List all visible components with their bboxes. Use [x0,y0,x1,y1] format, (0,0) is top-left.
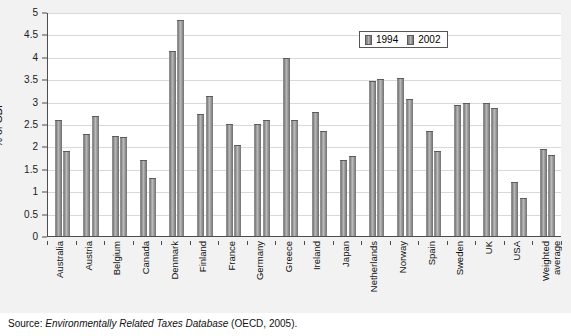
bar-1994-finland [197,114,204,236]
y-axis-tick-label: 3 [32,98,38,108]
bar-1994-spain [426,131,433,236]
legend-label: 1994 [376,34,398,45]
bar-1994-norway [397,78,404,236]
bar-2002-belgium [120,137,127,236]
x-axis-tick-label: USA [512,241,523,261]
x-axis-tick-label: Canada [141,241,152,274]
x-axis-tick-label: Spain [427,241,438,265]
gridline [48,58,561,59]
x-axis-tick-mark [47,241,48,245]
bar-1994-denmark [169,51,176,236]
chart-figure: % of GDP 00.511.522.533.544.55 Australia… [0,0,571,313]
x-axis-tick-label: UK [484,241,495,254]
y-axis-tick-label: 2.5 [24,120,38,130]
source-title: Environmentally Related Taxes Database [45,318,228,329]
bar-1994-canada [140,160,147,236]
x-axis-tick-mark [390,241,391,245]
bar-2002-uk [491,108,498,236]
x-axis-tick-label: Sweden [455,241,466,275]
bar-1994-australia [55,120,62,236]
bar-1994-greece [283,58,290,236]
y-axis-tick-label: 5 [32,8,38,18]
x-axis-tick-label: Germany [255,241,266,280]
source-prefix: Source: [8,318,45,329]
bar-1994-ireland [312,112,319,236]
x-axis-tick-mark [361,241,362,245]
bar-2002-canada [149,178,156,236]
y-axis-tick-label: 1 [32,187,38,197]
bar-2002-greece [291,120,298,236]
bar-2002-germany [263,120,270,236]
x-axis-tick-mark [504,241,505,245]
source-suffix: (OECD, 2005). [228,318,297,329]
x-axis-tick-mark [133,241,134,245]
y-axis-tick-label: 3.5 [24,75,38,85]
bar-2002-ireland [320,131,327,236]
x-axis-tick-label: Australia [55,241,66,278]
x-axis-tick-label: France [227,241,238,271]
x-axis-tick-label: Weightedaverage [541,241,562,281]
x-axis-tick-mark [76,241,77,245]
x-axis-tick-label: Netherlands [369,241,380,292]
legend-label: 2002 [418,34,440,45]
bar-2002-france [234,145,241,236]
bar-2002-australia [63,151,70,236]
bar-2002-norway [406,99,413,236]
x-axis-tick-label: Greece [284,241,295,272]
x-axis-tick-mark [104,241,105,245]
bar-1994-germany [254,124,261,236]
bar-1994-belgium [112,136,119,236]
bar-2002-japan [349,156,356,236]
chart-legend: 1994 2002 [359,31,448,48]
x-axis-tick-mark [475,241,476,245]
x-axis-tick-mark [532,241,533,245]
bar-1994-japan [340,160,347,236]
source-caption: Source: Environmentally Related Taxes Da… [8,318,297,329]
bar-1994-austria [83,134,90,236]
y-axis-tick-label: 0.5 [24,210,38,220]
x-axis-tick-mark [190,241,191,245]
y-axis-tick-label: 2 [32,142,38,152]
x-axis-tick-mark [218,241,219,245]
x-axis-tick-label: Belgium [112,241,123,275]
bar-1994-sweden [454,105,461,236]
bar-1994-uk [483,103,490,237]
bar-2002-weighted-average [548,155,555,236]
y-axis-tick-label: 4 [32,53,38,63]
x-axis-tick-label: Norway [398,241,409,273]
bar-2002-denmark [177,20,184,236]
x-axis: AustraliaAustriaBelgiumCanadaDenmarkFinl… [47,241,561,311]
bar-1994-france [226,124,233,236]
bar-2002-spain [434,151,441,236]
y-axis-tick-label: 4.5 [24,30,38,40]
bar-2002-finland [206,96,213,236]
bar-2002-austria [92,116,99,236]
gridline [48,13,561,14]
legend-item-2002: 2002 [407,34,440,45]
x-axis-tick-mark [275,241,276,245]
bar-2002-usa [520,198,527,236]
x-axis-tick-mark [333,241,334,245]
y-axis-tick-label: 0 [32,232,38,242]
bar-2002-sweden [463,103,470,236]
x-axis-tick-label: Austria [84,241,95,271]
x-axis-tick-mark [447,241,448,245]
x-axis-tick-label: Japan [341,241,352,267]
bar-1994-weighted-average [540,149,547,236]
legend-swatch-icon [407,35,414,45]
gridline [48,80,561,81]
x-axis-tick-mark [247,241,248,245]
bar-1994-usa [511,182,518,236]
x-axis-tick-label: Denmark [170,241,181,280]
x-axis-tick-label: Finland [198,241,209,272]
x-axis-tick-mark [418,241,419,245]
bar-2002-netherlands [377,79,384,236]
x-axis-tick-mark [161,241,162,245]
gridline [48,35,561,36]
plot-area [47,13,561,237]
x-axis-tick-mark [304,241,305,245]
y-axis-tick-label: 1.5 [24,165,38,175]
y-axis: 00.511.522.533.544.55 [0,0,47,238]
legend-item-1994: 1994 [365,34,398,45]
x-axis-tick-label: Ireland [312,241,323,270]
